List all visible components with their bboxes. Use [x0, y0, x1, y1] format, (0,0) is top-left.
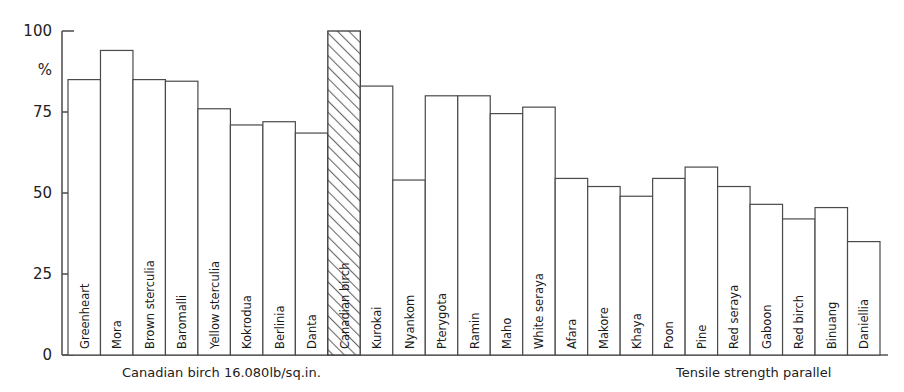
left-note: Canadian birch 16.080lb/sq.in.: [122, 365, 321, 380]
bar-label-poon: Poon: [662, 321, 676, 349]
bar-label-greenheart: Greenheart: [78, 283, 92, 349]
bar-label-khaya: Khaya: [630, 313, 644, 349]
bar-label-mora: Mora: [110, 320, 124, 349]
y-axis-tick-label: 0: [42, 346, 52, 364]
chart-canvas: 0255075100% GreenheartMoraBrown sterculi…: [0, 0, 904, 392]
bar-label-binuang: Binuang: [825, 302, 839, 349]
y-axis-tick-label: 50: [33, 184, 52, 202]
y-axis-unit-label: %: [38, 61, 52, 79]
bar-label-yellow-sterculia: Yellow sterculia: [208, 261, 222, 350]
bar-label-red-birch: Red birch: [792, 295, 806, 349]
bar-label-daniellia: Daniellia: [857, 299, 871, 349]
bar-label-baromalli: Baromalli: [175, 295, 189, 349]
right-note: Tensile strength parallel: [675, 365, 831, 380]
bar-label-ramin: Ramin: [468, 313, 482, 349]
bar-label-kokrodua: Kokrodua: [240, 295, 254, 349]
y-axis-tick-label: 75: [33, 103, 52, 121]
bar-mora[interactable]: [100, 50, 132, 355]
bar-label-white-seraya: White seraya: [532, 273, 546, 349]
bar-chart: 0255075100% GreenheartMoraBrown sterculi…: [0, 0, 904, 392]
bars-group: [68, 31, 880, 355]
bar-label-kurokai: Kurokai: [370, 307, 384, 349]
bar-label-berlinia: Berlinia: [273, 305, 287, 349]
y-axis-tick-label: 100: [23, 22, 52, 40]
bar-label-afara: Afara: [565, 319, 579, 349]
bar-label-maho: Maho: [500, 318, 514, 349]
y-axis-tick-label: 25: [33, 265, 52, 283]
bar-label-gaboon: Gaboon: [760, 304, 774, 349]
bar-label-pine: Pine: [695, 325, 709, 349]
bar-label-danta: Danta: [305, 314, 319, 349]
bar-label-nyankom: Nyankom: [403, 295, 417, 349]
bar-label-makore: Makore: [597, 307, 611, 349]
bar-label-canadian-birch: Canadian birch: [338, 263, 352, 349]
bar-label-brown-sterculia: Brown sterculia: [143, 260, 157, 349]
bar-label-red-seraya: Red seraya: [727, 285, 741, 349]
bar-label-pterygota: Pterygota: [435, 293, 449, 349]
